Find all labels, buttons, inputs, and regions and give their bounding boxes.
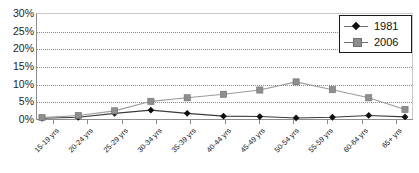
- data-point-1981: [293, 115, 300, 122]
- data-point-2006: [329, 87, 335, 93]
- data-point-2006: [148, 98, 154, 104]
- data-point-2006: [257, 87, 263, 93]
- data-point-2006: [39, 114, 45, 120]
- data-point-1981: [402, 113, 409, 120]
- data-point-2006: [112, 108, 118, 114]
- data-point-2006: [75, 112, 81, 118]
- data-point-1981: [148, 107, 155, 114]
- data-point-2006: [184, 95, 190, 101]
- data-point-1981: [329, 114, 336, 121]
- data-point-1981: [365, 112, 372, 119]
- series-line-2006: [42, 82, 405, 118]
- legend-item-2006[interactable]: 2006: [343, 34, 408, 50]
- data-point-2006: [293, 79, 299, 85]
- legend-item-1981[interactable]: 1981: [343, 18, 408, 34]
- legend-label-1981: 1981: [369, 21, 398, 32]
- data-point-1981: [184, 110, 191, 117]
- legend: 1981 2006: [339, 15, 412, 53]
- data-point-2006: [366, 95, 372, 101]
- data-point-1981: [220, 113, 227, 120]
- line-chart: 30%25%20%15%10%5%0% 15-19 yrs20-24 yrs25…: [0, 0, 419, 173]
- square-marker-icon: [343, 36, 369, 48]
- data-point-1981: [256, 113, 263, 120]
- diamond-marker-icon: [343, 20, 369, 32]
- data-point-2006: [402, 106, 408, 112]
- data-point-2006: [220, 91, 226, 97]
- legend-label-2006: 2006: [369, 37, 398, 48]
